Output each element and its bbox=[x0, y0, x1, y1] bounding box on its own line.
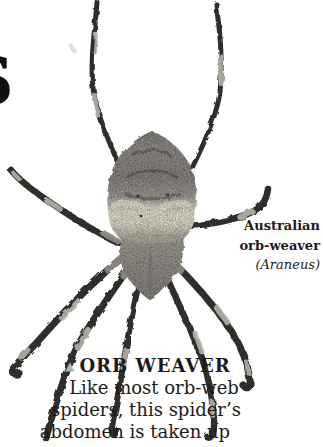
caption-heading: ▲ORB WEAVER bbox=[2, 355, 294, 377]
species-label-line1: Australian bbox=[239, 216, 320, 236]
spider-leg-front-left bbox=[92, 2, 122, 172]
book-page: S bbox=[0, 0, 323, 447]
spider-leg-front-right bbox=[192, 4, 221, 168]
caption-line: Like most orb-web bbox=[8, 377, 300, 399]
triangle-marker-icon: ▲ bbox=[65, 359, 74, 373]
photo-caption: ▲ORB WEAVER Like most orb-web spiders, t… bbox=[0, 355, 292, 443]
species-label: Australian orb-weaver (Araneus) bbox=[239, 216, 320, 275]
species-label-genus: (Araneus) bbox=[239, 255, 320, 275]
caption-line: spiders, this spider’s bbox=[0, 399, 292, 421]
species-label-line2: orb-weaver bbox=[239, 236, 320, 256]
caption-line: abdomen is taken up bbox=[0, 421, 281, 443]
spider-leg-faint-tip bbox=[68, 43, 77, 54]
caption-title: ORB WEAVER bbox=[79, 355, 230, 376]
spider-cephalothorax-midline bbox=[150, 246, 151, 294]
